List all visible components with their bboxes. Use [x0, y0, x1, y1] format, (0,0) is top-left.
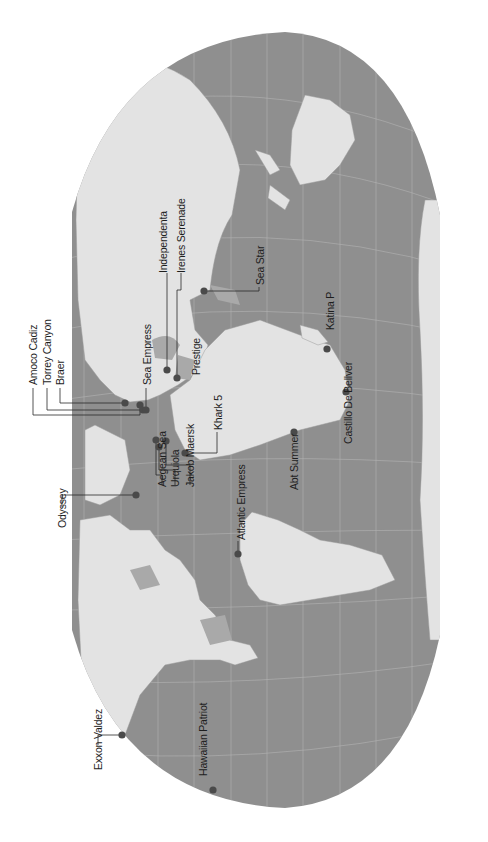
spill-label-sea-star: Sea Star	[254, 246, 266, 285]
spill-marker-braer	[121, 399, 128, 406]
spill-label-jakob-maersk: Jakob Maersk	[184, 424, 196, 487]
spill-label-independenta: Independenta	[157, 211, 169, 273]
spill-marker-irenes-serenade	[173, 374, 180, 381]
spill-label-prestige: Prestige	[190, 338, 202, 375]
spill-marker-katina-p	[323, 345, 330, 352]
spill-label-castillo-de-bellver: Castillo De Bellver	[342, 362, 354, 444]
spill-marker-odyssey	[132, 491, 139, 498]
spill-marker-exxon-valdez	[118, 731, 125, 738]
spill-label-odyssey: Odyssey	[56, 489, 68, 528]
spill-marker-sea-empress	[142, 406, 149, 413]
spill-label-urquiola: Urquiola	[169, 449, 181, 487]
spill-marker-atlantic-empress	[234, 550, 241, 557]
spill-label-irenes-serenade: Irenes Serenade	[175, 198, 187, 273]
spill-label-exxon-valdez: Exxon Valdez	[92, 709, 104, 770]
spill-label-hawaiian-patriot: Hawaiian Patriot	[197, 703, 209, 776]
spill-marker-sea-star	[200, 287, 207, 294]
spill-label-abt-summer: Abt Summer	[288, 434, 300, 490]
spill-label-atlantic-empress: Atlantic Empress	[235, 464, 247, 540]
spill-label-braer: Braer	[54, 360, 66, 385]
spill-label-aegean-sea: Aegean Sea	[156, 431, 168, 487]
spill-label-khark-5: Khark 5	[212, 395, 224, 430]
map-body	[60, 20, 460, 820]
spill-label-torrey-canyon: Torrey Canyon	[41, 319, 53, 385]
world-map	[0, 0, 488, 842]
spill-marker-hawaiian-patriot	[209, 786, 216, 793]
spill-label-katina-p: Katina P	[324, 292, 336, 330]
spill-marker-independenta	[163, 366, 170, 373]
spill-label-sea-empress: Sea Empress	[141, 324, 153, 385]
spill-label-amoco-cadiz: Amoco Cadiz	[27, 325, 39, 385]
